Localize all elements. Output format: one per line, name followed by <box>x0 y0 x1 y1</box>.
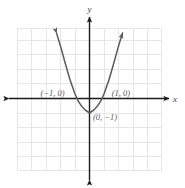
label-x-intercept-left: (−1, 0) <box>40 88 64 98</box>
label-vertex: (0, −1) <box>93 112 117 122</box>
y-axis-label: y <box>87 4 92 14</box>
label-x-intercept-right: (1, 0) <box>112 88 131 98</box>
parabola-graph-figure: y x (−1, 0) (1, 0) (0, −1) <box>0 0 185 188</box>
coordinate-plane-svg: y x (−1, 0) (1, 0) (0, −1) <box>0 0 185 188</box>
x-axis-label: x <box>172 94 177 104</box>
